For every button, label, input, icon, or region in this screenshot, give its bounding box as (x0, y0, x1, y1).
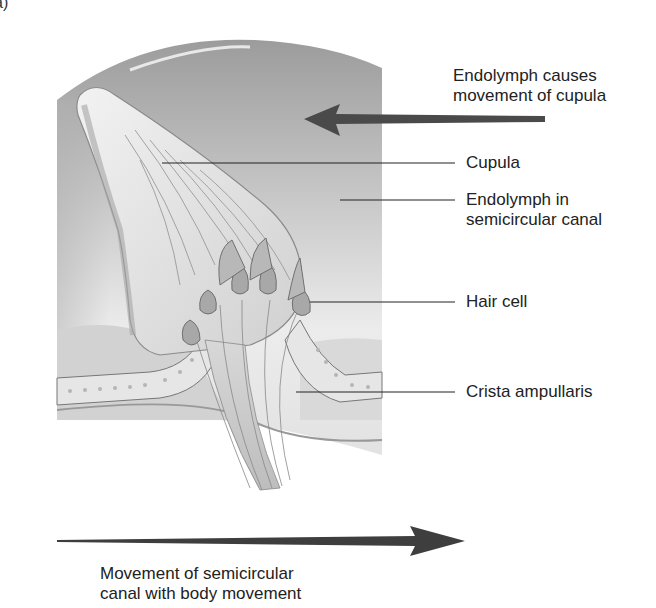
label-line: canal with body movement (100, 584, 301, 604)
label-cupula: Cupula (466, 153, 520, 173)
label-line: movement of cupula (453, 86, 606, 106)
body-movement-arrow (57, 526, 465, 556)
label-endolymph-in: Endolymph in semicircular canal (466, 190, 602, 230)
label-line: Movement of semicircular (100, 564, 301, 584)
label-movement: Movement of semicircular canal with body… (100, 564, 301, 604)
label-endolymph-causes: Endolymph causes movement of cupula (453, 66, 606, 106)
label-hair-cell: Hair cell (466, 292, 527, 312)
label-line: semicircular canal (466, 210, 602, 230)
label-line: Endolymph in (466, 190, 602, 210)
label-crista-ampullaris: Crista ampullaris (466, 382, 593, 402)
label-line: Endolymph causes (453, 66, 606, 86)
